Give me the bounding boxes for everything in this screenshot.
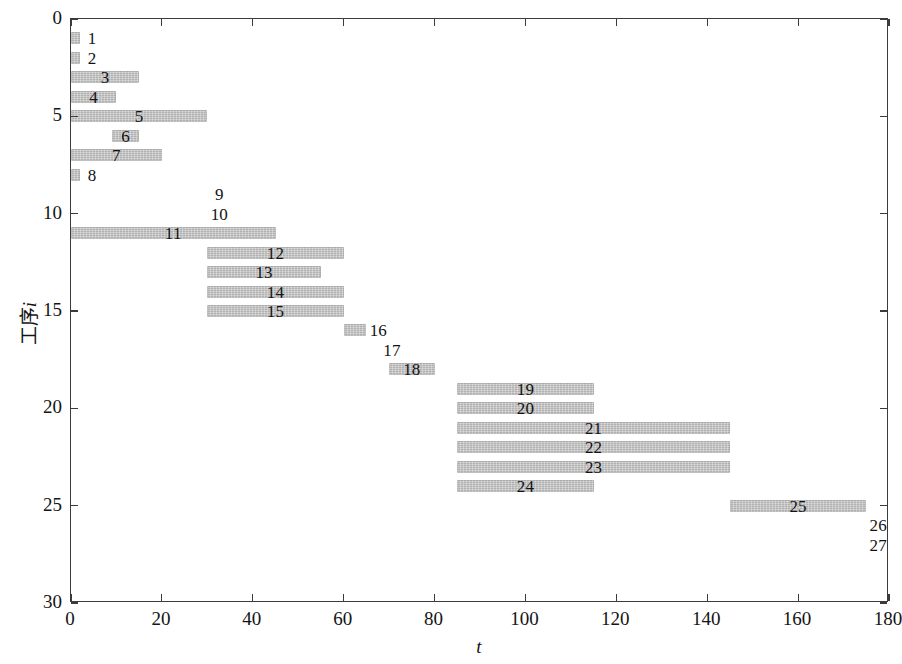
y-axis-tick: [71, 116, 78, 117]
y-axis-tick-label: 10: [43, 202, 62, 224]
gantt-bar-label: 18: [403, 361, 420, 378]
x-axis-tick: [343, 594, 344, 601]
x-axis-tick: [525, 594, 526, 601]
x-axis-tick: [707, 594, 708, 601]
gantt-bar-label: 2: [88, 49, 97, 66]
x-axis-tick: [70, 19, 71, 26]
x-axis-tick: [888, 594, 889, 601]
gantt-bar-label: 1: [88, 30, 97, 47]
gantt-bar-label: 11: [165, 225, 182, 242]
y-axis-tick-label: 15: [43, 299, 62, 321]
gantt-bar-label: 13: [255, 264, 272, 281]
x-axis-tick: [252, 19, 253, 26]
plot-area: 1234567891011121314151617181920212223242…: [70, 18, 888, 602]
y-axis-title-variable: i: [19, 302, 40, 307]
x-axis-tick-label: 100: [510, 608, 539, 630]
y-axis-tick-label: 20: [43, 396, 62, 418]
x-axis-tick: [434, 594, 435, 601]
y-axis-tick: [71, 408, 78, 409]
x-axis-tick-label: 80: [424, 608, 443, 630]
x-axis-title: t: [476, 636, 481, 658]
x-axis-tick-label: 40: [242, 608, 261, 630]
y-axis-tick: [880, 116, 887, 117]
x-axis-tick: [888, 19, 889, 26]
y-axis-tick: [880, 18, 887, 19]
gantt-bar-label: 17: [383, 341, 400, 358]
gantt-bar-label: 20: [517, 400, 534, 417]
x-axis-tick: [798, 19, 799, 26]
gantt-bar-label: 14: [267, 283, 284, 300]
x-axis-tick-label: 20: [151, 608, 170, 630]
gantt-chart: 1234567891011121314151617181920212223242…: [0, 0, 902, 664]
gantt-bar: [344, 324, 367, 336]
gantt-bar-label: 25: [789, 497, 806, 514]
x-axis-tick: [616, 19, 617, 26]
gantt-bar-label: 10: [211, 205, 228, 222]
gantt-bar-label: 6: [121, 127, 130, 144]
y-axis-tick: [71, 18, 78, 19]
gantt-bar-label: 9: [215, 186, 224, 203]
gantt-bar-label: 12: [267, 244, 284, 261]
y-axis-tick-label: 5: [53, 104, 63, 126]
x-axis-tick-label: 120: [601, 608, 630, 630]
x-axis-tick: [525, 19, 526, 26]
x-axis-tick: [70, 594, 71, 601]
y-axis-tick: [71, 505, 78, 506]
y-axis-tick: [880, 505, 887, 506]
gantt-bar: [71, 32, 80, 44]
x-axis-tick: [616, 594, 617, 601]
y-axis-tick: [71, 213, 78, 214]
x-axis-tick-label: 140: [692, 608, 721, 630]
gantt-bar-label: 3: [101, 69, 110, 86]
gantt-bar-label: 7: [112, 147, 121, 164]
x-axis-tick: [434, 19, 435, 26]
y-axis-tick: [880, 408, 887, 409]
y-axis-tick: [880, 310, 887, 311]
gantt-bar-label: 27: [870, 536, 887, 553]
gantt-bar-label: 23: [585, 458, 602, 475]
x-axis-tick-label: 0: [65, 608, 75, 630]
y-axis-tick-label: 0: [53, 7, 63, 29]
x-axis-tick: [161, 19, 162, 26]
x-axis-tick-label: 160: [783, 608, 812, 630]
y-axis-title: 工序i: [14, 302, 41, 345]
gantt-bar-label: 24: [517, 478, 534, 495]
y-axis-tick-label: 25: [43, 494, 62, 516]
y-axis-tick: [71, 310, 78, 311]
x-axis-tick: [798, 594, 799, 601]
y-axis-title-cjk: 工序: [19, 307, 40, 345]
gantt-bar-label: 19: [517, 380, 534, 397]
gantt-bar: [71, 52, 80, 64]
gantt-bar-label: 15: [267, 303, 284, 320]
gantt-bar: [71, 169, 80, 181]
gantt-bar-label: 26: [870, 517, 887, 534]
x-axis-tick-label: 60: [333, 608, 352, 630]
y-axis-tick: [880, 213, 887, 214]
y-axis-tick: [880, 602, 887, 603]
x-axis-tick: [343, 19, 344, 26]
x-axis-tick-label: 180: [874, 608, 902, 630]
x-axis-tick: [252, 594, 253, 601]
y-axis-tick-label: 30: [43, 591, 62, 613]
gantt-bar-label: 5: [135, 108, 144, 125]
x-axis-tick: [707, 19, 708, 26]
gantt-bar-label: 4: [89, 88, 98, 105]
gantt-bar-label: 16: [370, 322, 387, 339]
y-axis-tick: [71, 602, 78, 603]
gantt-bar-label: 8: [88, 166, 97, 183]
gantt-bar-label: 21: [585, 419, 602, 436]
x-axis-tick: [161, 594, 162, 601]
gantt-bar-label: 22: [585, 439, 602, 456]
